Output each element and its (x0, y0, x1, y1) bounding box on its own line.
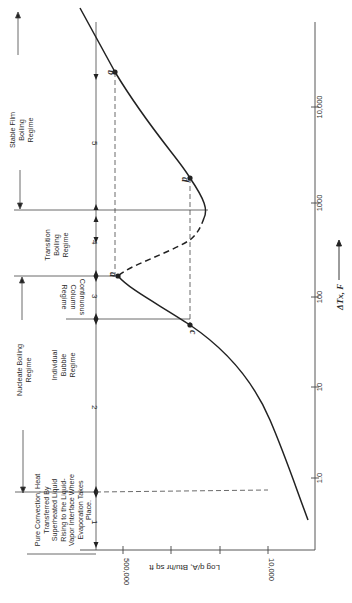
boiling-curve (80, 8, 308, 520)
svg-text:Regime: Regime (24, 358, 33, 383)
regime-number-4: 4 (90, 240, 99, 245)
svg-text:Regime: Regime (68, 353, 77, 378)
x-tick-10000: 10,000 (315, 96, 324, 119)
y-tick-10000: 10,000 (267, 558, 276, 581)
x-axis-arrow (337, 240, 342, 280)
y-axis-title: Log q/A, Btu/hr sq ft (149, 563, 220, 572)
projection-lines (96, 72, 268, 492)
svg-text:Boiling: Boiling (17, 119, 26, 141)
y-tick-500000: 500,000 (122, 558, 131, 585)
point-a-label: a (108, 272, 119, 277)
svg-text:Continuous: Continuous (78, 279, 87, 316)
x-tick-1000: 1000 (315, 195, 324, 212)
point-d-label: d (180, 177, 191, 183)
regime-3-label: Continuous Column Regime (60, 279, 87, 316)
svg-text:Transition: Transition (43, 229, 52, 260)
regime-1-label: Pure Convection, Heat Transferred By Sup… (33, 474, 93, 546)
boiling-curve-figure: a b c d 5 4 3 2 1 Stable Film Boiling Re… (0, 0, 352, 603)
svg-text:Column: Column (69, 285, 78, 310)
svg-text:Regime: Regime (26, 118, 35, 143)
regime-5-label: Stable Film Boiling Regime (8, 112, 35, 148)
regime-number-3: 3 (90, 294, 99, 299)
regime-4-label: Transition Boiling Regime (43, 229, 70, 260)
regime-number-2: 2 (90, 405, 99, 410)
point-c (187, 322, 192, 327)
x-tick-100: 100 (315, 291, 324, 304)
axes (80, 22, 319, 554)
svg-text:Nucleate Boiling: Nucleate Boiling (15, 344, 24, 396)
point-b-label: b (106, 70, 117, 75)
svg-text:Regime: Regime (60, 285, 69, 310)
point-c-label: c (188, 330, 199, 335)
marked-points (112, 69, 192, 327)
regime-side-arrows (16, 12, 26, 493)
regime-boundaries (14, 22, 208, 554)
svg-text:Stable Film: Stable Film (8, 112, 17, 148)
x-tick-1: 1.0 (315, 473, 324, 483)
x-tick-10: 10 (315, 383, 324, 391)
svg-text:Individual: Individual (50, 349, 59, 380)
svg-text:Place.: Place. (84, 500, 93, 520)
regime-2-label: Individual Bubble Regime (50, 349, 77, 380)
svg-text:Bubble: Bubble (59, 354, 68, 376)
svg-text:Boiling: Boiling (52, 234, 61, 256)
x-axis-title: ΔTx, F (335, 284, 345, 311)
nucleate-boiling-label: Nucleate Boiling Regime (15, 344, 33, 396)
svg-text:Regime: Regime (61, 233, 70, 258)
regime-number-5: 5 (90, 141, 99, 146)
